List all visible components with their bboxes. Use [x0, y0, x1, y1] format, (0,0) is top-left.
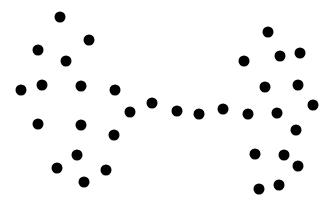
graph-node: [243, 109, 254, 120]
graph-node: [250, 149, 261, 160]
graph-node: [194, 109, 205, 120]
graph-node: [263, 27, 274, 38]
graph-node: [109, 130, 120, 141]
graph-node: [295, 48, 306, 59]
diagram-canvas: [0, 0, 329, 205]
graph-node: [101, 165, 112, 176]
graph-node: [275, 51, 286, 62]
graph-node: [260, 82, 271, 93]
graph-node: [16, 85, 27, 96]
graph-node: [279, 150, 290, 161]
graph-node: [76, 120, 87, 131]
graph-node: [37, 80, 48, 91]
graph-node: [33, 45, 44, 56]
graph-node: [84, 35, 95, 46]
graph-node: [110, 85, 121, 96]
graph-node: [293, 80, 304, 91]
graph-node: [272, 108, 283, 119]
graph-node: [79, 177, 90, 188]
graph-node: [61, 56, 72, 67]
graph-node: [274, 180, 285, 191]
graph-node: [218, 104, 229, 115]
graph-node: [147, 98, 158, 109]
graph-node: [239, 56, 250, 67]
graph-node: [125, 107, 136, 118]
graph-node: [291, 125, 302, 136]
graph-node: [55, 12, 66, 23]
graph-node: [76, 81, 87, 92]
graph-node: [293, 161, 304, 172]
graph-node: [52, 163, 63, 174]
graph-node: [172, 106, 183, 117]
graph-node: [33, 119, 44, 130]
graph-node: [308, 100, 319, 111]
graph-node: [72, 150, 83, 161]
graph-node: [254, 184, 265, 195]
